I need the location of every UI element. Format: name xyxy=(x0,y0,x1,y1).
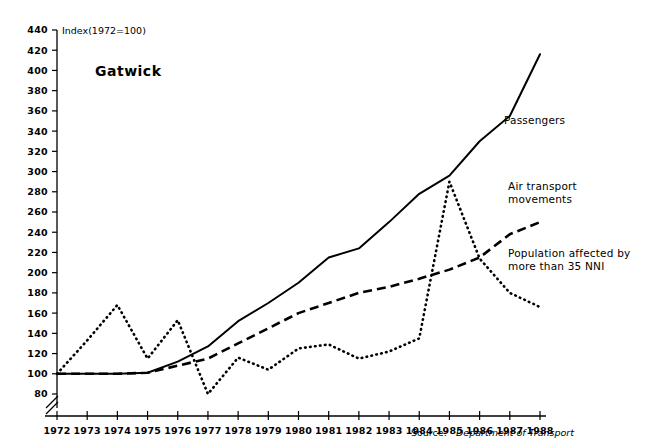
y-tick-label-380: 380 xyxy=(27,85,48,96)
y-tick-label-180: 180 xyxy=(27,287,48,298)
chart-canvas: 8010012014016018020022024026028030032034… xyxy=(0,0,658,443)
x-tick-label-1981: 1981 xyxy=(315,425,342,436)
x-tick-label-1978: 1978 xyxy=(225,425,252,436)
y-tick-label-260: 260 xyxy=(27,206,48,217)
y-tick-label-320: 320 xyxy=(27,146,48,157)
x-tick-label-1974: 1974 xyxy=(104,425,131,436)
y-tick-label-140: 140 xyxy=(27,328,48,339)
series-label-passengers: Passengers xyxy=(504,114,565,126)
y-tick-label-300: 300 xyxy=(27,166,48,177)
x-tick-label-1979: 1979 xyxy=(255,425,282,436)
y-tick-label-100: 100 xyxy=(27,368,48,379)
y-tick-label-280: 280 xyxy=(27,186,48,197)
chart-title: Gatwick xyxy=(95,63,162,79)
source-value: Department of Transport xyxy=(456,427,575,438)
y-tick-label-160: 160 xyxy=(27,308,48,319)
series-label-air-transport-movements-line2: movements xyxy=(508,193,572,205)
x-tick-label-1983: 1983 xyxy=(375,425,402,436)
x-tick-label-1982: 1982 xyxy=(345,425,372,436)
y-tick-label-440: 440 xyxy=(27,24,48,35)
x-tick-label-1975: 1975 xyxy=(134,425,161,436)
y-tick-label-360: 360 xyxy=(27,105,48,116)
x-tick-label-1980: 1980 xyxy=(285,425,312,436)
x-tick-label-1976: 1976 xyxy=(164,425,191,436)
x-tick-label-1973: 1973 xyxy=(74,425,101,436)
y-tick-label-80: 80 xyxy=(34,388,48,399)
y-axis-unit-note: Index(1972=100) xyxy=(62,25,146,36)
y-tick-label-340: 340 xyxy=(27,126,48,137)
series-label-air-transport-movements-line1: Air transport xyxy=(508,180,577,192)
line-chart: 8010012014016018020022024026028030032034… xyxy=(0,0,658,443)
source-credit: Source: Department of Transport xyxy=(411,427,575,438)
y-tick-label-240: 240 xyxy=(27,227,48,238)
x-tick-label-1977: 1977 xyxy=(194,425,221,436)
series-label-population-affected-line1: Population affected by xyxy=(508,247,630,259)
series-label-population-affected-line2: more than 35 NNI xyxy=(508,260,604,272)
y-tick-label-220: 220 xyxy=(27,247,48,258)
source-prefix: Source: xyxy=(411,427,447,438)
x-tick-label-1972: 1972 xyxy=(43,425,70,436)
y-tick-label-200: 200 xyxy=(27,267,48,278)
y-tick-label-400: 400 xyxy=(27,65,48,76)
y-tick-label-120: 120 xyxy=(27,348,48,359)
y-tick-label-420: 420 xyxy=(27,45,48,56)
